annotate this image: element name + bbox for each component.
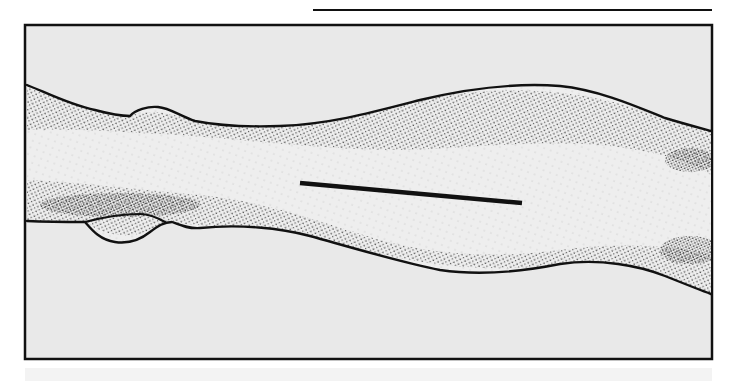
illustration-canvas xyxy=(0,0,738,381)
bottom-band xyxy=(25,368,712,381)
anatomical-illustration xyxy=(0,0,738,381)
